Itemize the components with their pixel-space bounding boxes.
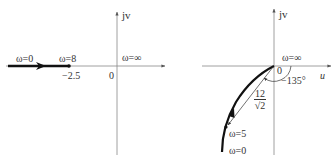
magnitude-numerator: 12: [254, 88, 266, 100]
right-point-omega-5: [224, 125, 227, 128]
magnitude-denominator: √2: [254, 100, 266, 111]
left-origin-label: 0: [109, 71, 114, 81]
left-omega-8-label: ω=8: [59, 54, 76, 64]
right-jv-label: jv: [279, 9, 288, 19]
right-nyquist-curve: [222, 66, 274, 152]
left-plot: [6, 12, 165, 155]
magnitude-vector: [228, 67, 273, 125]
right-omega-5-label: ω=5: [229, 129, 246, 139]
angle-label: −135°: [281, 76, 306, 86]
right-omega-0-label: ω=0: [229, 146, 246, 156]
left-minus-2-5-label: −2.5: [62, 71, 80, 81]
left-omega-0-label: ω=0: [16, 54, 33, 64]
right-plot: [202, 9, 331, 155]
left-omega-inf-label: ω=∞: [122, 53, 141, 63]
left-point-minus-2-5: [67, 64, 71, 68]
right-omega-inf-label: ω=∞: [282, 53, 301, 63]
left-jv-label: jv: [122, 10, 131, 20]
magnitude-fraction: 12 √2: [254, 88, 266, 111]
right-u-label: u: [320, 71, 325, 81]
